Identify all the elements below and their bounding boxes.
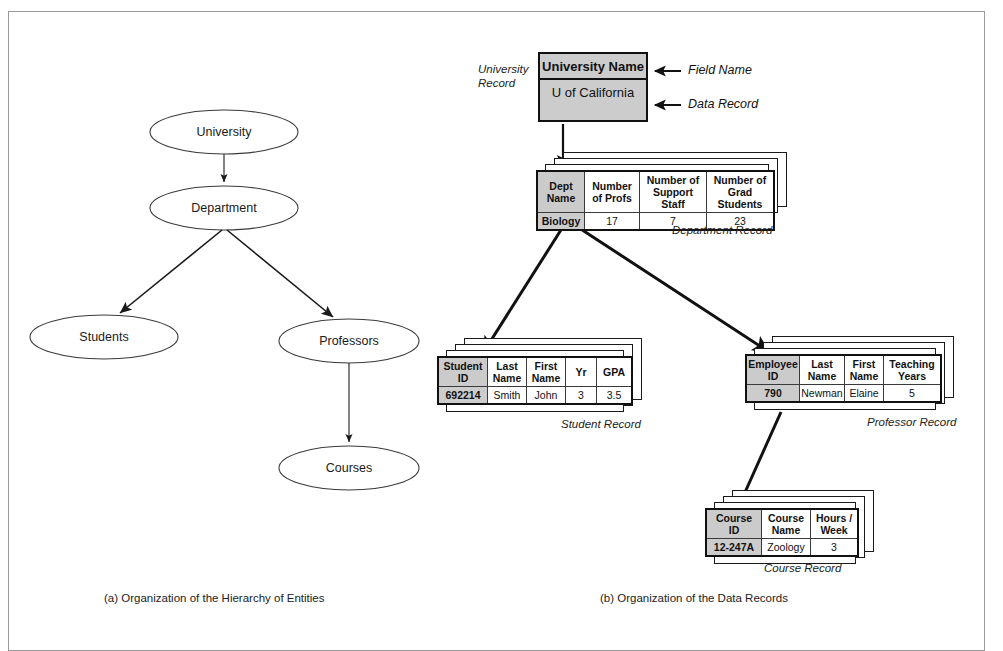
university-record-data-value: U of California: [540, 80, 646, 106]
department-record-caption: Department Record: [672, 224, 772, 236]
data-cell: 5: [884, 385, 942, 403]
table-row: 692214 Smith John 3 3.5: [438, 387, 632, 405]
table-row: 790 Newman Elaine 5: [746, 385, 941, 403]
table-header-row: Dept Name Number of Profs Number of Supp…: [537, 171, 774, 213]
course-record-table: Course ID Course Name Hours / Week 12-24…: [705, 508, 859, 557]
header-cell: First Name: [845, 355, 884, 385]
header-cell: Teaching Years: [884, 355, 942, 385]
data-cell: Biology: [537, 213, 585, 231]
header-cell: GPA: [597, 357, 633, 387]
data-cell: 692214: [438, 387, 488, 405]
data-cell: Smith: [488, 387, 527, 405]
header-cell: First Name: [527, 357, 566, 387]
table-header-row: Student ID Last Name First Name Yr GPA: [438, 357, 632, 387]
header-cell: Number of Profs: [585, 171, 640, 213]
university-record-side-label-line1: University: [478, 62, 528, 76]
header-cell: Student ID: [438, 357, 488, 387]
table-row: 12-247A Zoology 3: [706, 539, 858, 557]
professor-record-caption: Professor Record: [867, 416, 956, 428]
data-cell: 3.5: [597, 387, 633, 405]
data-cell: 3: [811, 539, 859, 557]
data-cell: 12-247A: [706, 539, 762, 557]
annotation-data-record: Data Record: [688, 97, 758, 111]
header-cell: Last Name: [800, 355, 845, 385]
header-cell: Number of Grad Students: [707, 171, 775, 213]
header-cell: Number of Support Staff: [640, 171, 707, 213]
data-cell: 17: [585, 213, 640, 231]
panel-a-caption: (a) Organization of the Hierarchy of Ent…: [104, 592, 325, 604]
university-record-side-label: University Record: [478, 62, 528, 91]
department-record-table: Dept Name Number of Profs Number of Supp…: [536, 170, 775, 231]
university-record-box: University Name U of California: [538, 52, 648, 122]
professor-record-table: Employee ID Last Name First Name Teachin…: [745, 354, 942, 403]
course-record-caption: Course Record: [764, 562, 841, 574]
table-header-row: Employee ID Last Name First Name Teachin…: [746, 355, 941, 385]
header-cell: Last Name: [488, 357, 527, 387]
data-cell: Elaine: [845, 385, 884, 403]
university-record-side-label-line2: Record: [478, 76, 528, 90]
header-cell: Dept Name: [537, 171, 585, 213]
university-record-field-name: University Name: [540, 54, 646, 80]
data-cell: 3: [566, 387, 597, 405]
student-record-caption: Student Record: [561, 418, 641, 430]
header-cell: Hours / Week: [811, 509, 859, 539]
header-cell: Course ID: [706, 509, 762, 539]
header-cell: Course Name: [762, 509, 811, 539]
header-cell: Employee ID: [746, 355, 800, 385]
student-record-table: Student ID Last Name First Name Yr GPA: [437, 356, 633, 405]
table-header-row: Course ID Course Name Hours / Week: [706, 509, 858, 539]
data-cell: John: [527, 387, 566, 405]
header-cell: Yr: [566, 357, 597, 387]
panel-b-caption: (b) Organization of the Data Records: [600, 592, 788, 604]
data-cell: Zoology: [762, 539, 811, 557]
annotation-field-name: Field Name: [688, 63, 752, 77]
data-cell: 790: [746, 385, 800, 403]
data-cell: Newman: [800, 385, 845, 403]
